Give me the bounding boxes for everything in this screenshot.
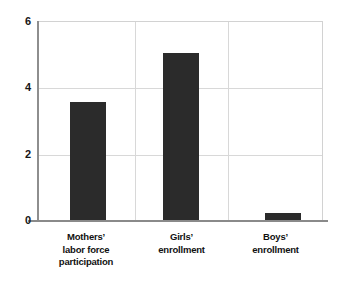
y-tick-label-2: 2 (0, 148, 31, 160)
y-tick-label-6: 6 (0, 15, 31, 27)
bar-chart-figure: 6 4 2 0 Mothers’ labor force participati… (0, 0, 340, 288)
plot-area (37, 21, 323, 220)
x-label-line-1: Mothers’ (37, 231, 135, 244)
x-label-line-1: Boys’ (228, 231, 323, 244)
x-label-line-2: enrollment (228, 244, 323, 257)
bar-boys-enrollment (265, 213, 301, 220)
y-tick-label-4: 4 (0, 81, 31, 93)
x-axis-baseline (28, 220, 328, 222)
x-axis-label-mothers-labor-force-participation: Mothers’ labor force participation (37, 231, 135, 269)
y-tick-label-0: 0 (0, 214, 31, 226)
x-axis-label-boys-enrollment: Boys’ enrollment (228, 231, 323, 256)
x-label-line-3: participation (37, 256, 135, 269)
x-axis-label-girls-enrollment: Girls’ enrollment (135, 231, 228, 256)
x-label-line-2: labor force (37, 244, 135, 257)
bar-mothers-labor-force-participation (70, 102, 106, 220)
x-label-line-1: Girls’ (135, 231, 228, 244)
bar-girls-enrollment (163, 53, 199, 221)
gridline-category-2 (228, 22, 229, 220)
gridline-category-1 (135, 22, 136, 220)
x-label-line-2: enrollment (135, 244, 228, 257)
y-axis-line (37, 21, 39, 221)
